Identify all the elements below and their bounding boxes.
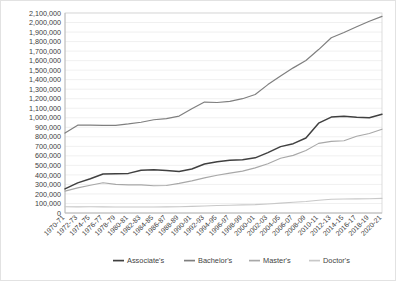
y-axis-tick-label: 900,000: [35, 123, 61, 132]
y-axis-tick-label: 400,000: [35, 171, 61, 180]
chart-legend: Associate'sBachelor'sMaster'sDoctor's: [113, 256, 350, 265]
y-axis-tick-label: 1,200,000: [29, 94, 61, 103]
y-axis-tick-label: 2,000,000: [29, 18, 61, 27]
y-axis-tick-label: 1,800,000: [29, 37, 61, 46]
plot-area-border: [65, 13, 382, 213]
x-axis-tick-labels: 1970-711972-731974-751976-771978-791980-…: [43, 214, 383, 237]
y-axis-tick-label: 500,000: [35, 161, 61, 170]
series-line-bachelors: [65, 16, 382, 133]
y-axis-tick-label: 1,600,000: [29, 56, 61, 65]
y-axis-tick-label: 600,000: [35, 151, 61, 160]
y-axis-tick-label: 2,100,000: [29, 9, 61, 18]
y-axis-tick-label: 1,700,000: [29, 47, 61, 56]
legend-label-masters: Master's: [263, 256, 291, 265]
plot-border: [65, 13, 382, 213]
legend-label-associates: Associate's: [127, 256, 164, 265]
gridlines: [65, 13, 382, 213]
data-series-lines: [65, 16, 382, 207]
y-axis-tick-label: 700,000: [35, 142, 61, 151]
y-axis-tick-label: 1,300,000: [29, 85, 61, 94]
y-axis-tick-label: 1,500,000: [29, 66, 61, 75]
y-axis-tick-label: 1,900,000: [29, 28, 61, 37]
y-axis-tick-label: 800,000: [35, 132, 61, 141]
y-axis-tick-label: 300,000: [35, 180, 61, 189]
y-axis-tick-label: 1,400,000: [29, 75, 61, 84]
y-axis-tick-label: 100,000: [35, 199, 61, 208]
y-axis-tick-label: 200,000: [35, 190, 61, 199]
legend-label-doctors: Doctor's: [323, 256, 350, 265]
legend-label-bachelors: Bachelor's: [198, 256, 233, 265]
series-line-doctors: [65, 198, 382, 207]
series-line-masters: [65, 129, 382, 191]
chart-container: 2,100,0002,000,0001,900,0001,800,0001,70…: [0, 0, 396, 281]
y-axis-tick-labels: 2,100,0002,000,0001,900,0001,800,0001,70…: [29, 9, 61, 218]
degrees-conferred-line-chart: 2,100,0002,000,0001,900,0001,800,0001,70…: [1, 1, 397, 282]
y-axis-tick-label: 1,000,000: [29, 113, 61, 122]
y-axis-tick-label: 1,100,000: [29, 104, 61, 113]
